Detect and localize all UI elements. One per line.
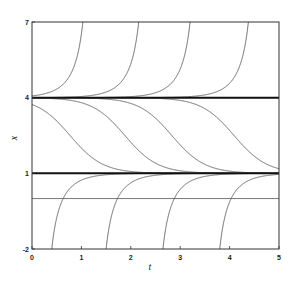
solution-curve bbox=[91, 98, 279, 169]
equilibrium-lines bbox=[32, 98, 279, 199]
y-tick-label: 1 bbox=[25, 170, 29, 177]
x-tick-label: 0 bbox=[30, 254, 34, 261]
y-axis-label: x bbox=[8, 135, 19, 141]
plot-frame bbox=[32, 22, 279, 249]
solution-curves bbox=[32, 22, 279, 249]
solution-curve bbox=[32, 104, 213, 173]
solution-curve bbox=[220, 174, 279, 249]
y-tick-label: 4 bbox=[25, 94, 29, 101]
solution-curve bbox=[32, 22, 83, 96]
x-tick-label: 3 bbox=[178, 254, 182, 261]
y-tick-label: 7 bbox=[25, 19, 29, 26]
x-tick-label: 1 bbox=[79, 254, 83, 261]
solution-curve bbox=[32, 98, 268, 173]
solution-curve bbox=[32, 98, 279, 174]
solution-curve bbox=[32, 22, 139, 98]
solution-curve bbox=[58, 22, 190, 98]
solution-curve bbox=[106, 173, 238, 249]
solution-curve bbox=[52, 173, 184, 249]
y-tick-label: -2 bbox=[23, 246, 29, 253]
x-tick-label: 5 bbox=[277, 254, 281, 261]
x-tick-label: 2 bbox=[129, 254, 133, 261]
solution-curves-chart: 012345-2147 t x bbox=[0, 0, 291, 285]
x-tick-label: 4 bbox=[228, 254, 232, 261]
x-axis-label: t bbox=[149, 261, 152, 272]
solution-curve bbox=[116, 22, 248, 98]
axis-ticks: 012345-2147 bbox=[23, 19, 281, 262]
